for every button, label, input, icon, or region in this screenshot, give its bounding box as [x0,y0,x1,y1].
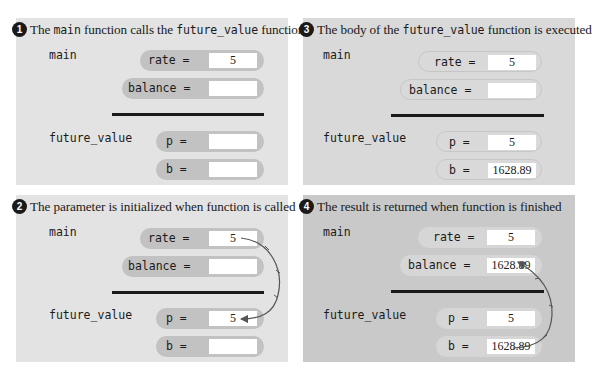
var-rate: rate = 5 [418,51,542,72]
step-3-title: 3The body of the future_value function i… [299,22,592,38]
value-box [209,162,257,177]
value-box [209,134,257,149]
value-box: 5 [209,53,257,68]
var-rate: rate = 5 [140,50,264,71]
return-value-arrow-icon [303,195,575,362]
step-number-badge: 3 [299,22,314,37]
step-2-panel: 2The parameter is initialized when funct… [16,195,288,362]
step-1-title: 1The main function calls the future_valu… [12,22,304,38]
var-b: b = 1628.89 [436,159,542,180]
main-frame-label: main [323,48,351,62]
value-box: 5 [488,55,536,70]
step-4-panel: 4The result is returned when function is… [303,195,575,362]
future-value-frame-label: future_value [49,131,132,145]
value-box [488,83,536,98]
frame-divider [112,113,264,116]
value-box: 5 [488,135,536,150]
var-balance: balance = [122,78,264,99]
value-box [209,81,257,96]
step-3-panel: 3The body of the future_value function i… [303,18,575,185]
future-value-frame-label: future_value [323,131,406,145]
step-1-panel: 1The main function calls the future_valu… [16,18,288,185]
parameter-pass-arrow-icon [16,195,288,362]
frame-divider [391,114,544,117]
var-p: p = [156,131,264,152]
value-box: 1628.89 [488,163,536,178]
var-p: p = 5 [436,131,542,152]
main-frame-label: main [49,48,77,62]
step-number-badge: 1 [12,22,27,37]
var-balance: balance = [400,79,542,100]
var-b: b = [156,159,264,180]
